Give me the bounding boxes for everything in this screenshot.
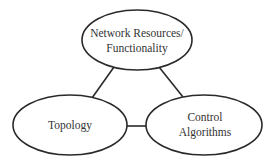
node-topology-label: Topology — [48, 119, 92, 132]
node-control-algorithms-ellipse — [146, 95, 262, 155]
concept-diagram: Network Resources/ Functionality Topolog… — [0, 0, 274, 165]
node-network-resources: Network Resources/ Functionality — [82, 10, 192, 70]
node-control-algorithms-label-line2: Algorithms — [179, 126, 232, 139]
edge-resources-control — [159, 67, 183, 97]
node-control-algorithms-label-line1: Control — [187, 111, 222, 123]
node-control-algorithms: Control Algorithms — [146, 95, 262, 155]
edge-resources-topology — [92, 67, 114, 98]
node-network-resources-label-line2: Functionality — [106, 42, 168, 55]
node-topology: Topology — [13, 95, 127, 155]
node-network-resources-label-line1: Network Resources/ — [90, 27, 184, 39]
node-network-resources-ellipse — [82, 10, 192, 70]
